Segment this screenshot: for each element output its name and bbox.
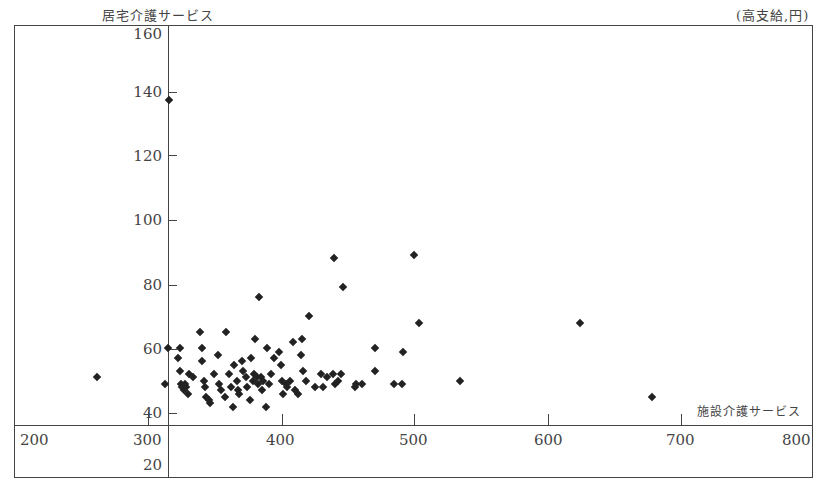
data-point (93, 373, 101, 381)
data-point (230, 360, 238, 368)
data-point (206, 399, 214, 407)
scatter-plot-area (0, 0, 819, 486)
data-point (288, 338, 296, 346)
data-point (339, 283, 347, 291)
data-point (267, 370, 275, 378)
data-point (456, 376, 464, 384)
data-point (235, 389, 243, 397)
data-point (189, 373, 197, 381)
data-point (165, 95, 173, 103)
data-point (415, 318, 423, 326)
data-point (262, 402, 270, 410)
data-point (576, 318, 584, 326)
data-point (302, 376, 310, 384)
data-point (229, 402, 237, 410)
data-point (276, 360, 284, 368)
data-point (175, 367, 183, 375)
data-point (319, 383, 327, 391)
data-point (198, 344, 206, 352)
data-point (275, 347, 283, 355)
data-point (210, 370, 218, 378)
data-point (225, 370, 233, 378)
data-point (222, 328, 230, 336)
data-point (233, 376, 241, 384)
data-point (247, 354, 255, 362)
data-point (161, 380, 169, 388)
data-point (263, 344, 271, 352)
data-point (397, 380, 405, 388)
data-point (163, 344, 171, 352)
data-point (371, 367, 379, 375)
data-point (409, 250, 417, 258)
data-point (214, 351, 222, 359)
data-point (399, 347, 407, 355)
data-point (255, 292, 263, 300)
data-point (647, 393, 655, 401)
data-point (251, 334, 259, 342)
data-point (258, 386, 266, 394)
data-point (198, 357, 206, 365)
data-point (296, 351, 304, 359)
data-point (195, 328, 203, 336)
data-point (238, 357, 246, 365)
data-point (330, 254, 338, 262)
data-point (175, 344, 183, 352)
data-point (299, 367, 307, 375)
data-point (243, 383, 251, 391)
data-point (174, 354, 182, 362)
data-point (221, 393, 229, 401)
data-point (298, 334, 306, 342)
data-point (304, 312, 312, 320)
data-point (371, 344, 379, 352)
data-point (246, 396, 254, 404)
data-point (201, 383, 209, 391)
